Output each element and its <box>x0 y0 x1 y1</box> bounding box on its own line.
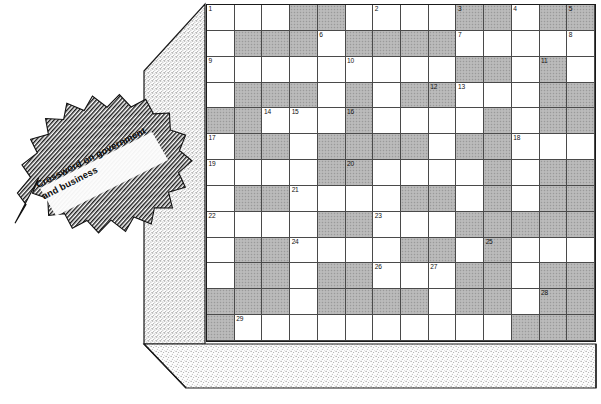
crossword-cell[interactable]: 26 <box>373 263 401 289</box>
crossword-cell[interactable] <box>290 289 318 315</box>
crossword-cell[interactable] <box>373 83 401 109</box>
crossword-cell[interactable] <box>456 315 484 341</box>
crossword-cell[interactable] <box>512 263 540 289</box>
crossword-cell[interactable] <box>318 315 346 341</box>
crossword-cell[interactable] <box>429 212 457 238</box>
crossword-cell[interactable]: 17 <box>207 134 235 160</box>
crossword-cell[interactable] <box>429 134 457 160</box>
crossword-cell[interactable]: 8 <box>567 31 595 57</box>
crossword-cell[interactable] <box>429 108 457 134</box>
crossword-cell[interactable] <box>456 238 484 264</box>
crossword-cell[interactable] <box>235 57 263 83</box>
crossword-cell[interactable] <box>512 31 540 57</box>
crossword-cell[interactable] <box>373 160 401 186</box>
crossword-cell[interactable] <box>235 160 263 186</box>
crossword-cell[interactable] <box>207 238 235 264</box>
crossword-cell-blocked <box>540 160 568 186</box>
crossword-cell[interactable]: 10 <box>346 57 374 83</box>
crossword-cell[interactable]: 13 <box>456 83 484 109</box>
crossword-cell[interactable] <box>401 315 429 341</box>
crossword-cell[interactable] <box>318 108 346 134</box>
crossword-cell[interactable]: 9 <box>207 57 235 83</box>
crossword-cell[interactable] <box>207 263 235 289</box>
crossword-cell[interactable] <box>456 108 484 134</box>
crossword-cell[interactable]: 24 <box>290 238 318 264</box>
crossword-cell[interactable] <box>512 160 540 186</box>
crossword-cell[interactable]: 15 <box>290 108 318 134</box>
crossword-cell[interactable] <box>262 5 290 31</box>
crossword-cell[interactable] <box>373 57 401 83</box>
crossword-cell[interactable] <box>207 83 235 109</box>
crossword-cell[interactable] <box>262 212 290 238</box>
crossword-cell[interactable] <box>290 57 318 83</box>
crossword-cell[interactable] <box>429 57 457 83</box>
crossword-cell[interactable]: 27 <box>429 263 457 289</box>
crossword-cell[interactable] <box>262 315 290 341</box>
crossword-cell[interactable]: 21 <box>290 186 318 212</box>
crossword-cell[interactable] <box>540 238 568 264</box>
crossword-cell[interactable] <box>567 57 595 83</box>
crossword-cell[interactable] <box>456 160 484 186</box>
crossword-cell[interactable]: 4 <box>512 5 540 31</box>
crossword-cell[interactable] <box>484 31 512 57</box>
crossword-cell[interactable] <box>401 263 429 289</box>
crossword-cell[interactable]: 19 <box>207 160 235 186</box>
crossword-cell[interactable] <box>318 57 346 83</box>
crossword-cell[interactable]: 2 <box>373 5 401 31</box>
crossword-cell[interactable] <box>401 5 429 31</box>
crossword-cell[interactable] <box>401 57 429 83</box>
crossword-cell[interactable] <box>512 289 540 315</box>
crossword-cell[interactable] <box>346 5 374 31</box>
crossword-cell[interactable] <box>429 160 457 186</box>
crossword-cell[interactable] <box>290 160 318 186</box>
crossword-cell[interactable] <box>512 108 540 134</box>
crossword-cell[interactable]: 23 <box>373 212 401 238</box>
crossword-cell[interactable]: 7 <box>456 31 484 57</box>
crossword-cell[interactable]: 29 <box>235 315 263 341</box>
crossword-cell[interactable] <box>429 289 457 315</box>
crossword-cell[interactable]: 18 <box>512 134 540 160</box>
crossword-cell[interactable] <box>207 186 235 212</box>
crossword-cell[interactable] <box>290 315 318 341</box>
crossword-cell[interactable] <box>512 57 540 83</box>
crossword-cell[interactable] <box>318 238 346 264</box>
crossword-grid[interactable]: 1234567891011121314151617181920212223242… <box>206 4 596 342</box>
crossword-cell[interactable] <box>540 134 568 160</box>
crossword-cell[interactable] <box>512 186 540 212</box>
crossword-cell[interactable] <box>373 186 401 212</box>
crossword-cell[interactable] <box>235 5 263 31</box>
crossword-cell[interactable] <box>456 186 484 212</box>
crossword-cell[interactable] <box>235 212 263 238</box>
crossword-cell[interactable]: 1 <box>207 5 235 31</box>
crossword-cell[interactable] <box>373 315 401 341</box>
crossword-cell[interactable] <box>567 134 595 160</box>
crossword-cell[interactable]: 22 <box>207 212 235 238</box>
crossword-cell[interactable]: 6 <box>318 31 346 57</box>
crossword-cell[interactable] <box>429 5 457 31</box>
crossword-cell[interactable] <box>484 83 512 109</box>
crossword-cell[interactable] <box>512 238 540 264</box>
crossword-cell[interactable] <box>567 238 595 264</box>
crossword-cell[interactable] <box>318 83 346 109</box>
crossword-cell[interactable] <box>512 83 540 109</box>
crossword-cell[interactable] <box>346 315 374 341</box>
crossword-cell[interactable] <box>401 108 429 134</box>
crossword-cell[interactable] <box>484 315 512 341</box>
crossword-cell[interactable] <box>401 160 429 186</box>
crossword-cell[interactable] <box>373 108 401 134</box>
crossword-cell[interactable] <box>373 238 401 264</box>
crossword-cell[interactable] <box>346 238 374 264</box>
crossword-cell[interactable] <box>262 57 290 83</box>
crossword-cell[interactable] <box>540 31 568 57</box>
crossword-cell[interactable]: 14 <box>262 108 290 134</box>
crossword-cell[interactable] <box>346 186 374 212</box>
crossword-cell[interactable] <box>290 263 318 289</box>
crossword-cell[interactable] <box>290 134 318 160</box>
crossword-cell[interactable] <box>429 315 457 341</box>
crossword-cell-blocked <box>512 315 540 341</box>
crossword-cell[interactable] <box>401 212 429 238</box>
crossword-cell[interactable] <box>290 212 318 238</box>
crossword-cell[interactable] <box>318 186 346 212</box>
crossword-cell[interactable] <box>207 31 235 57</box>
crossword-cell[interactable] <box>262 160 290 186</box>
